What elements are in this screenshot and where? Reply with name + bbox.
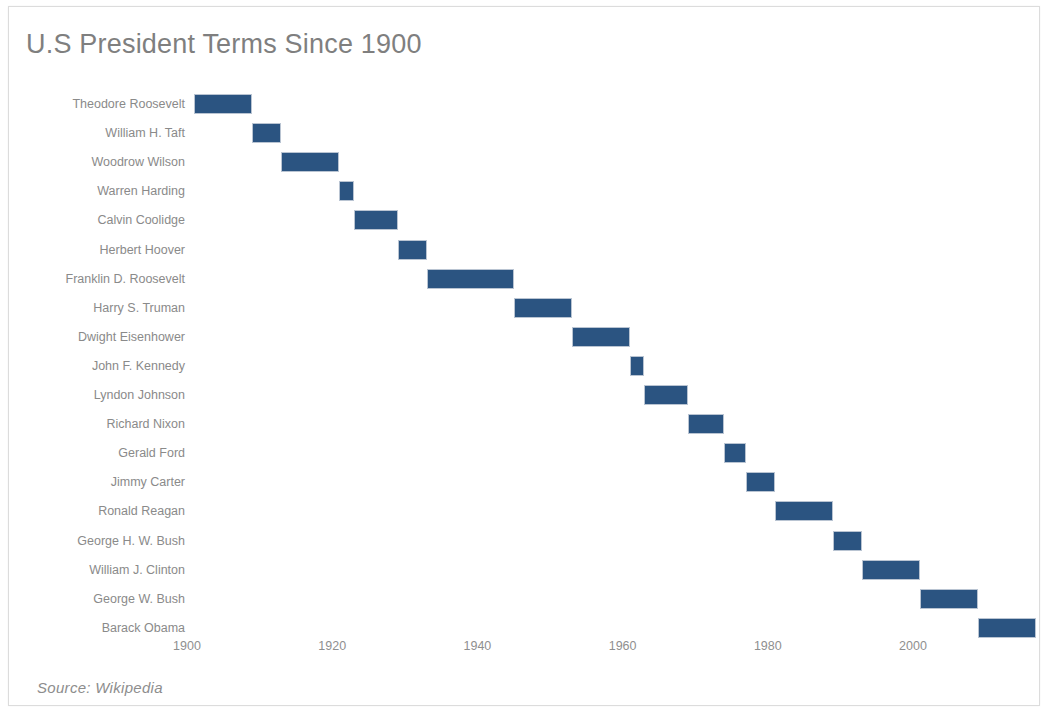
chart-row: Calvin Coolidge [9, 210, 1041, 239]
term-bar[interactable] [281, 152, 339, 172]
term-bar[interactable] [833, 531, 862, 551]
term-bar[interactable] [644, 385, 688, 405]
row-label-president: Warren Harding [15, 181, 185, 201]
row-label-president: Gerald Ford [15, 443, 185, 463]
row-label-president: Harry S. Truman [15, 298, 185, 318]
x-axis: 190019201940196019802000 [9, 639, 1041, 661]
chart-frame: U.S President Terms Since 1900 Theodore … [8, 6, 1040, 706]
x-axis-tick-label: 2000 [899, 639, 927, 653]
row-label-president: George W. Bush [15, 589, 185, 609]
term-bar[interactable] [688, 414, 724, 434]
term-bar[interactable] [630, 356, 645, 376]
x-axis-tick-label: 1980 [754, 639, 782, 653]
row-label-president: Jimmy Carter [15, 472, 185, 492]
chart-row: Harry S. Truman [9, 298, 1041, 327]
row-label-president: William H. Taft [15, 123, 185, 143]
chart-row: Herbert Hoover [9, 240, 1041, 269]
chart-row: Warren Harding [9, 181, 1041, 210]
x-axis-tick-label: 1940 [463, 639, 491, 653]
term-bar[interactable] [746, 472, 775, 492]
x-axis-tick-label: 1900 [173, 639, 201, 653]
plot-area: Theodore RooseveltWilliam H. TaftWoodrow… [9, 7, 1041, 707]
chart-row: John F. Kennedy [9, 356, 1041, 385]
term-bar[interactable] [339, 181, 354, 201]
term-bar[interactable] [427, 269, 514, 289]
chart-row: Woodrow Wilson [9, 152, 1041, 181]
chart-row: Franklin D. Roosevelt [9, 269, 1041, 298]
chart-row: William J. Clinton [9, 560, 1041, 589]
row-label-president: George H. W. Bush [15, 531, 185, 551]
chart-row: Richard Nixon [9, 414, 1041, 443]
x-axis-tick-label: 1960 [609, 639, 637, 653]
row-label-president: John F. Kennedy [15, 356, 185, 376]
term-bar[interactable] [398, 240, 427, 260]
term-bar[interactable] [724, 443, 746, 463]
row-label-president: Herbert Hoover [15, 240, 185, 260]
term-bar[interactable] [920, 589, 978, 609]
row-label-president: Barack Obama [15, 618, 185, 638]
chart-row: Jimmy Carter [9, 472, 1041, 501]
row-label-president: Richard Nixon [15, 414, 185, 434]
row-label-president: Calvin Coolidge [15, 210, 185, 230]
x-axis-tick-label: 1920 [318, 639, 346, 653]
row-label-president: Ronald Reagan [15, 501, 185, 521]
term-bar[interactable] [978, 618, 1036, 638]
source-note: Source: Wikipedia [37, 679, 163, 696]
row-label-president: Lyndon Johnson [15, 385, 185, 405]
chart-row: Gerald Ford [9, 443, 1041, 472]
term-bar[interactable] [862, 560, 920, 580]
term-bar[interactable] [194, 94, 252, 114]
row-label-president: Dwight Eisenhower [15, 327, 185, 347]
chart-row: Dwight Eisenhower [9, 327, 1041, 356]
chart-row: George H. W. Bush [9, 531, 1041, 560]
term-bar[interactable] [514, 298, 572, 318]
chart-row: Theodore Roosevelt [9, 94, 1041, 123]
row-label-president: Woodrow Wilson [15, 152, 185, 172]
term-bar[interactable] [775, 501, 833, 521]
term-bar[interactable] [572, 327, 630, 347]
chart-row: Lyndon Johnson [9, 385, 1041, 414]
chart-row: George W. Bush [9, 589, 1041, 618]
row-label-president: Franklin D. Roosevelt [15, 269, 185, 289]
row-label-president: Theodore Roosevelt [15, 94, 185, 114]
row-label-president: William J. Clinton [15, 560, 185, 580]
chart-row: Ronald Reagan [9, 501, 1041, 530]
term-bar[interactable] [354, 210, 398, 230]
chart-row: William H. Taft [9, 123, 1041, 152]
term-bar[interactable] [252, 123, 281, 143]
